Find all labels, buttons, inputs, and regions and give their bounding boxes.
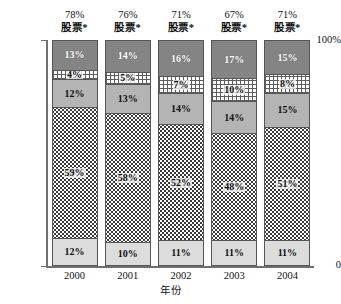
bar-2003-segment-4[interactable]: 10% <box>212 79 256 102</box>
segment-value-label: 11% <box>171 248 190 258</box>
x-axis-label-2003: 2003 <box>204 270 264 282</box>
segment-value-label: 14% <box>118 51 138 61</box>
segment-value-label: 5% <box>119 73 136 83</box>
segment-value-label: 13% <box>65 50 85 60</box>
bar-2003-segment-2[interactable]: 48% <box>212 134 256 241</box>
segment-value-label: 11% <box>224 248 243 258</box>
stacked-bar-chart: 100% 0 年份 13%4%12%59%12%14%5%13%58%10%16… <box>0 0 341 304</box>
segment-value-label: 51% <box>276 179 298 189</box>
segment-value-label: 11% <box>278 248 297 258</box>
x-axis-line <box>46 266 314 268</box>
bar-2003-segment-5-top[interactable]: 17% <box>212 41 256 79</box>
bar-2002[interactable]: 16%7%14%52%11% <box>158 40 204 266</box>
bar-annotation-2004: 71%股票* <box>252 8 322 34</box>
bar-2004-segment-5-top[interactable]: 15% <box>265 41 309 75</box>
bar-2002-segment-3[interactable]: 14% <box>159 94 203 126</box>
bar-2003-segment-3[interactable]: 14% <box>212 102 256 134</box>
segment-value-label: 10% <box>223 85 245 95</box>
bar-2004[interactable]: 15%8%15%51%11% <box>264 40 310 266</box>
bar-2002-segment-2[interactable]: 52% <box>159 125 203 240</box>
bar-2001-segment-3[interactable]: 13% <box>106 85 150 115</box>
bar-2004-segment-3[interactable]: 15% <box>265 94 309 128</box>
bar-2002-segment-5-top[interactable]: 16% <box>159 41 203 77</box>
bar-2001-segment-1-bottom[interactable]: 10% <box>106 243 150 265</box>
segment-value-label: 48% <box>223 182 245 192</box>
bar-2003[interactable]: 17%10%14%48%11% <box>211 40 257 266</box>
bar-2004-segment-1-bottom[interactable]: 11% <box>265 241 309 265</box>
segment-value-label: 10% <box>118 249 138 259</box>
bar-2000-segment-4[interactable]: 4% <box>53 71 97 81</box>
y-axis-tick-top <box>41 40 47 41</box>
bar-2000[interactable]: 13%4%12%59%12% <box>52 40 98 266</box>
segment-value-label: 16% <box>171 54 191 64</box>
x-axis-label-2002: 2002 <box>151 270 211 282</box>
x-axis-label-2000: 2000 <box>45 270 105 282</box>
bar-2001-segment-5-top[interactable]: 14% <box>106 41 150 73</box>
segment-value-label: 12% <box>65 247 85 257</box>
bar-2003-segment-1-bottom[interactable]: 11% <box>212 241 256 265</box>
annotation-label: 股票* <box>252 21 322 34</box>
bar-2001-segment-2[interactable]: 58% <box>106 114 150 243</box>
segment-value-label: 7% <box>173 80 190 90</box>
bar-2000-segment-5-top[interactable]: 13% <box>53 41 97 71</box>
segment-value-label: 14% <box>171 104 191 114</box>
segment-value-label: 13% <box>118 94 138 104</box>
bar-2000-segment-2[interactable]: 59% <box>53 108 97 239</box>
segment-value-label: 12% <box>65 89 85 99</box>
segment-value-label: 59% <box>64 168 86 178</box>
bar-2001-segment-4[interactable]: 5% <box>106 73 150 85</box>
segment-value-label: 52% <box>170 178 192 188</box>
segment-value-label: 15% <box>277 53 297 63</box>
x-axis-title: 年份 <box>0 285 341 297</box>
segment-value-label: 15% <box>277 105 297 115</box>
bar-2000-segment-3[interactable]: 12% <box>53 80 97 107</box>
segment-value-label: 14% <box>224 113 244 123</box>
bar-2000-segment-1-bottom[interactable]: 12% <box>53 239 97 265</box>
x-axis-label-2004: 2004 <box>257 270 317 282</box>
segment-value-label: 17% <box>224 55 244 65</box>
segment-value-label: 8% <box>279 79 296 89</box>
x-axis-label-2001: 2001 <box>98 270 158 282</box>
plot-area: 13%4%12%59%12%14%5%13%58%10%16%7%14%52%1… <box>48 40 314 266</box>
bar-2001[interactable]: 14%5%13%58%10% <box>105 40 151 266</box>
annotation-percent: 71% <box>252 8 322 21</box>
bar-2004-segment-4[interactable]: 8% <box>265 75 309 94</box>
bar-2002-segment-1-bottom[interactable]: 11% <box>159 241 203 265</box>
segment-value-label: 58% <box>117 173 139 183</box>
bar-2002-segment-4[interactable]: 7% <box>159 77 203 93</box>
bar-2004-segment-2[interactable]: 51% <box>265 128 309 241</box>
segment-value-label: 4% <box>66 71 83 80</box>
